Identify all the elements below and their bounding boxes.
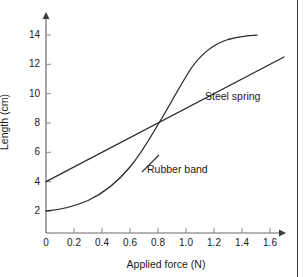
x-tick-label-1-6: 1.6	[263, 238, 277, 248]
x-axis-ticks	[74, 228, 270, 233]
x-tick-label-0-2: 0.2	[67, 238, 81, 248]
y-tick-label-14: 14	[20, 30, 40, 40]
y-tick-label-10: 10	[20, 89, 40, 99]
series-label-steel-spring: Steel spring	[205, 90, 260, 102]
y-tick-label-12: 12	[20, 59, 40, 69]
x-tick-label-1-2: 1.2	[207, 238, 221, 248]
y-axis-title: Length (cm)	[0, 94, 10, 150]
plot-area	[0, 0, 304, 277]
x-tick-label-1-0: 1.0	[179, 238, 193, 248]
page-border-rule	[297, 0, 298, 277]
x-tick-label-0-4: 0.4	[95, 238, 109, 248]
y-tick-label-6: 6	[20, 147, 40, 157]
series-line-rubber-band	[46, 35, 257, 211]
x-tick-label-0-6: 0.6	[123, 238, 137, 248]
y-tick-label-2: 2	[20, 206, 40, 216]
x-tick-label-0-8: 0.8	[151, 238, 165, 248]
x-tick-label-0: 0	[43, 238, 49, 248]
y-axis-ticks	[46, 35, 51, 211]
y-tick-label-4: 4	[20, 177, 40, 187]
x-tick-label-1-4: 1.4	[235, 238, 249, 248]
series-label-rubber-band: Rubber band	[147, 163, 208, 175]
x-axis-title: Applied force (N)	[127, 258, 206, 270]
y-tick-label-8: 8	[20, 118, 40, 128]
chart-figure: 0 0.2 0.4 0.6 0.8 1.0 1.2 1.4 1.6 2 4 6 …	[0, 0, 304, 277]
